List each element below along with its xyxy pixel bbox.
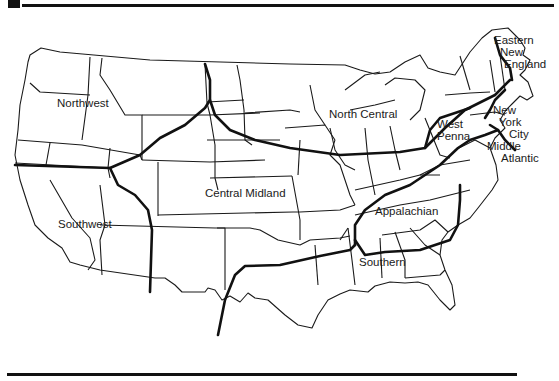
region-label-line: City <box>493 128 529 140</box>
region-label-line: Middle <box>487 140 539 152</box>
region-label-eastern-new-england: Eastern New England <box>494 34 546 70</box>
region-label-line: York <box>493 116 529 128</box>
region-label-southwest: Southwest <box>58 218 112 230</box>
region-label-west-penna: West Penna. <box>437 118 473 142</box>
region-label-northwest: Northwest <box>57 97 109 109</box>
region-label-north-central: North Central <box>329 108 397 120</box>
region-label-appalachian: Appalachian <box>375 205 438 217</box>
region-label-line: Atlantic <box>487 152 539 164</box>
us-outline <box>15 28 533 328</box>
region-label-new-york-city: New York City <box>493 104 529 140</box>
region-label-middle-atlantic: Middle Atlantic <box>487 140 539 164</box>
region-label-line: New <box>493 104 529 116</box>
region-label-line: Eastern <box>494 34 546 46</box>
region-label-line: West <box>437 118 473 130</box>
region-label-southern: Southern <box>359 256 406 268</box>
region-label-line: Penna. <box>437 130 473 142</box>
region-label-line: New <box>494 46 546 58</box>
state-borders <box>15 55 505 290</box>
region-label-line: England <box>494 58 546 70</box>
region-label-central-midland: Central Midland <box>205 187 286 199</box>
footer-rule <box>7 373 517 376</box>
